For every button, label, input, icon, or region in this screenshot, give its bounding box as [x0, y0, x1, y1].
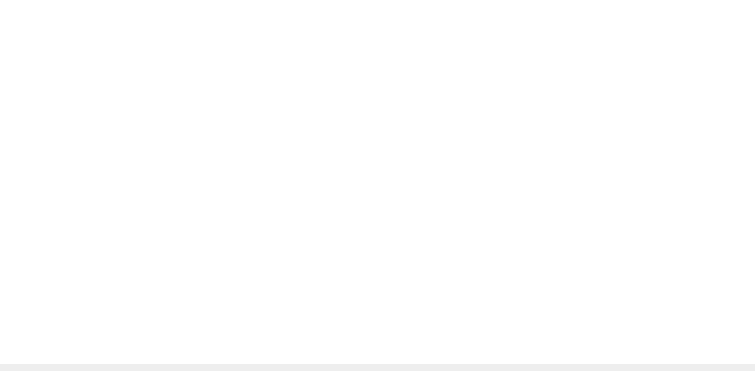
page-edge-strip [0, 364, 755, 371]
single-case-design-chart [0, 0, 755, 371]
